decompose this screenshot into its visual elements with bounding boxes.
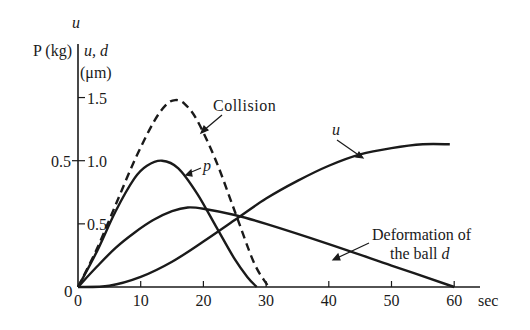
deformation-the-ball: the ball xyxy=(390,245,442,262)
axes: 01020304050600.51.01.50.5 xyxy=(51,44,480,309)
u-label: u xyxy=(332,121,340,138)
deformation-arrow-head xyxy=(333,254,340,260)
y-right-tick-label: 0.5 xyxy=(87,216,107,233)
deformation-label-line1: Deformation of xyxy=(372,226,472,243)
deformation-label-line2: the ball d xyxy=(390,245,451,262)
x-tick-label: 40 xyxy=(321,292,337,309)
y-right-unit-label: (μm) xyxy=(80,64,112,82)
collision-chart: 01020304050600.51.01.50.5 u P (kg) u, d … xyxy=(0,0,530,330)
u-arrow xyxy=(337,140,360,156)
x-tick-label: 10 xyxy=(133,292,149,309)
series-collision xyxy=(78,100,269,287)
annotation-arrows xyxy=(186,115,369,260)
y-left-axis-label: P (kg) xyxy=(33,42,72,60)
p-label: p xyxy=(202,157,211,175)
y-right-axis-label: u, d xyxy=(84,42,109,59)
p-arrow-head xyxy=(186,170,192,176)
y-right-tick-label: 1.0 xyxy=(87,153,107,170)
x-tick-label: 20 xyxy=(195,292,211,309)
origin-label: 0 xyxy=(64,282,73,301)
y-left-tick-label: 0.5 xyxy=(51,153,71,170)
y-right-top-label: u xyxy=(72,14,80,31)
collision-label: Collision xyxy=(213,97,276,114)
x-tick-label: 30 xyxy=(258,292,274,309)
x-tick-label: 0 xyxy=(74,292,82,309)
x-tick-label: 60 xyxy=(446,292,462,309)
y-right-tick-label: 1.5 xyxy=(87,90,107,107)
deformation-d: d xyxy=(442,245,451,262)
x-tick-label: 50 xyxy=(384,292,400,309)
x-axis-label: sec xyxy=(478,292,498,309)
